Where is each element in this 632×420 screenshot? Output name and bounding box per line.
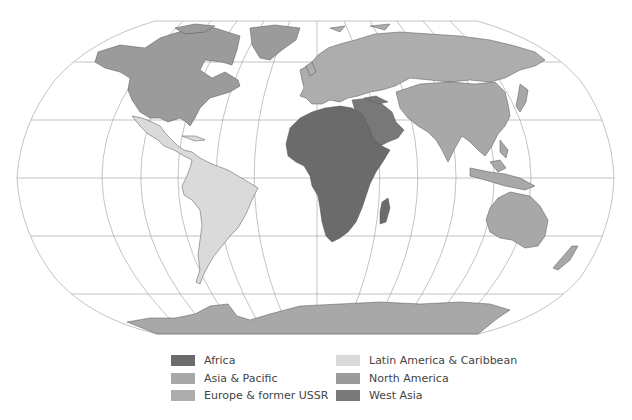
legend-label-africa: Africa <box>204 354 235 367</box>
legend-item-europe-former-ussr: Europe & former USSR <box>171 387 328 403</box>
legend-label-west-asia: West Asia <box>369 389 423 402</box>
legend-item-africa: Africa <box>171 352 235 368</box>
region-asia-pacific <box>396 82 578 270</box>
legend-swatch-latin-america <box>336 355 360 366</box>
region-antarctica <box>127 302 510 334</box>
legend-swatch-europe-former-ussr <box>171 390 195 401</box>
legend-item-north-america: North America <box>336 370 449 386</box>
legend-label-north-america: North America <box>369 372 449 385</box>
legend-item-asia-pacific: Asia & Pacific <box>171 370 278 386</box>
region-latin-america <box>132 116 258 284</box>
legend-label-europe-former-ussr: Europe & former USSR <box>204 389 328 402</box>
world-map <box>0 0 632 340</box>
legend-item-latin-america: Latin America & Caribbean <box>336 352 517 368</box>
legend-label-latin-america: Latin America & Caribbean <box>369 354 517 367</box>
legend-swatch-asia-pacific <box>171 373 195 384</box>
legend-swatch-africa <box>171 355 195 366</box>
legend-swatch-west-asia <box>336 390 360 401</box>
map-legend: Africa Asia & Pacific Europe & former US… <box>171 352 571 412</box>
legend-item-west-asia: West Asia <box>336 387 423 403</box>
legend-label-asia-pacific: Asia & Pacific <box>204 372 278 385</box>
legend-swatch-north-america <box>336 373 360 384</box>
